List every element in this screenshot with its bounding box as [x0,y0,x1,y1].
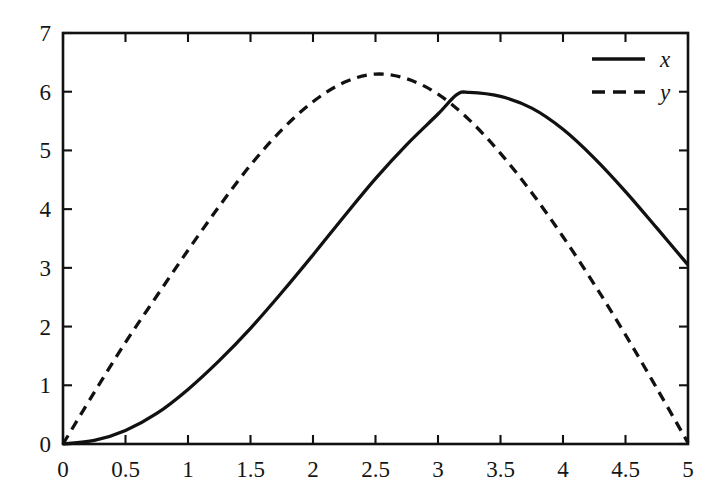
x-tick-label: 5 [682,458,694,481]
axis-ticks [63,33,688,444]
x-tick-label: 3.5 [486,458,515,481]
series-line-x [63,92,688,444]
data-series [63,74,688,444]
plot-area [0,0,724,489]
series-line-y [63,74,688,444]
x-tick-label: 1 [182,458,194,481]
axes-frame [63,33,688,444]
plot-box-frame [63,33,688,444]
y-tick-label: 3 [40,256,52,279]
x-tick-label: 2.5 [361,458,390,481]
x-tick-label: 4.5 [611,458,640,481]
legend-label-x: x [660,48,670,71]
x-tick-label: 2 [307,458,319,481]
x-tick-label: 1.5 [236,458,265,481]
y-tick-label: 1 [40,374,52,397]
y-tick-label: 0 [40,433,52,456]
x-tick-label: 3 [432,458,444,481]
y-tick-label: 4 [40,198,52,221]
x-tick-label: 0.5 [111,458,140,481]
legend-label-y: y [660,81,670,104]
y-tick-label: 2 [40,315,52,338]
legend-samples [592,59,645,92]
figure-canvas: 00.511.522.533.544.5501234567 xy [0,0,724,489]
x-tick-label: 4 [557,458,569,481]
y-tick-label: 6 [40,80,52,103]
y-tick-label: 5 [40,139,52,162]
y-tick-label: 7 [40,22,52,45]
x-tick-label: 0 [57,458,69,481]
